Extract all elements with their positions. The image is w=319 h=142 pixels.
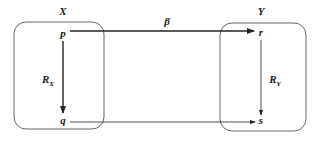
edge-rx-label: RX — [41, 73, 54, 88]
set-y-label: Y — [258, 5, 266, 17]
commutative-diagram: X Y p q r s β RX RY — [0, 0, 319, 142]
edge-rx-subscript: X — [48, 80, 54, 88]
set-x-label: X — [58, 5, 67, 17]
node-s: s — [258, 114, 263, 126]
edge-beta-label: β — [163, 15, 170, 27]
node-q: q — [60, 114, 66, 126]
set-x-box — [14, 22, 104, 129]
edge-ry-label: RY — [268, 73, 281, 88]
node-p: p — [59, 27, 66, 39]
edge-rx-main: R — [41, 73, 49, 85]
edge-ry-subscript: Y — [277, 80, 282, 88]
edge-ry-main: R — [268, 73, 276, 85]
node-r: r — [259, 26, 264, 38]
